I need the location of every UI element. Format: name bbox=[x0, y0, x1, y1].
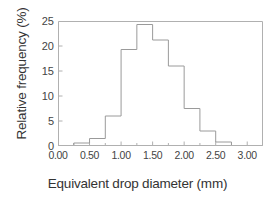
x-axis-title: Equivalent drop diameter (mm) bbox=[0, 176, 275, 191]
x-tick-label: 2.50 bbox=[199, 149, 233, 161]
x-tick-label: 1.00 bbox=[104, 149, 138, 161]
x-tick-label: 0.50 bbox=[73, 149, 107, 161]
x-tick-label: 3.00 bbox=[230, 149, 264, 161]
x-tick-label: 0.00 bbox=[41, 149, 75, 161]
x-tick-label: 2.00 bbox=[167, 149, 201, 161]
chart-figure: Relative frequency (%) 0510152025 0.000.… bbox=[0, 0, 275, 203]
x-axis-tick-labels: 0.000.501.001.502.002.503.00 bbox=[0, 0, 275, 203]
x-tick-label: 1.50 bbox=[136, 149, 170, 161]
